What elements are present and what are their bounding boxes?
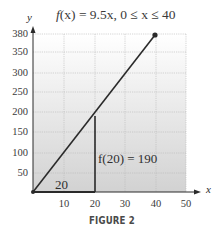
x-tick-40: 40: [146, 198, 166, 209]
annotation-base-20: 20: [55, 177, 68, 193]
x-tick-30: 30: [115, 198, 135, 209]
y-tick-350: 350: [0, 46, 28, 57]
x-tick-20: 20: [85, 198, 105, 209]
chart-title: f(x) = 9.5x, 0 ≤ x ≤ 40: [56, 7, 176, 23]
x-tick-50: 50: [176, 198, 196, 209]
y-axis-arrow-icon: [31, 26, 36, 33]
x-axis-arrow-icon: [194, 190, 201, 195]
plot-area: [33, 34, 186, 192]
figure-caption: FIGURE 2: [20, 214, 204, 226]
y-tick-300: 300: [0, 67, 28, 78]
x-axis-label: x: [206, 183, 211, 195]
y-tick-100: 100: [0, 147, 28, 158]
y-tick-150: 150: [0, 126, 28, 137]
y-tick-200: 200: [0, 106, 28, 117]
y-tick-380: 380: [0, 28, 28, 39]
chart-canvas: [0, 0, 224, 231]
y-tick-50: 50: [0, 167, 28, 178]
title-expression: (x) = 9.5x, 0 ≤ x ≤ 40: [60, 7, 176, 22]
x-tick-10: 10: [54, 198, 74, 209]
annotation-f20: f(20) = 190: [98, 151, 157, 167]
y-tick-250: 250: [0, 86, 28, 97]
start-point: [31, 190, 35, 194]
y-axis-label: y: [27, 11, 32, 23]
end-point: [152, 32, 157, 37]
